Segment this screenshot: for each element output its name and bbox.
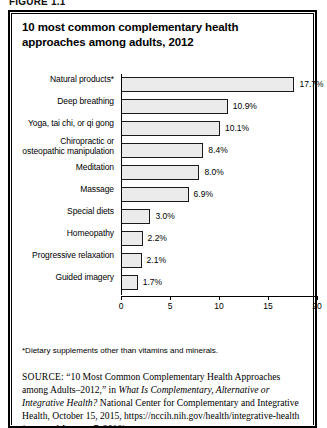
bar-category-label: Special diets: [14, 206, 114, 216]
y-axis-line: [121, 74, 122, 295]
bar: [121, 209, 150, 224]
x-axis: 05101520: [14, 296, 314, 316]
bar-row: Deep breathing10.9%: [14, 96, 314, 118]
bar: [121, 165, 199, 180]
bar-chart: Natural products*17.7%Deep breathing10.9…: [14, 74, 314, 336]
bar-track: [121, 209, 314, 224]
x-axis-tick: [170, 296, 171, 300]
bar-row: Special diets3.0%: [14, 206, 314, 228]
bar-value-label: 8.4%: [208, 143, 227, 158]
bar-row: Natural products*17.7%: [14, 74, 314, 96]
x-axis-tick: [121, 296, 122, 300]
bar-track: [121, 187, 314, 202]
bar-category-label: Natural products*: [14, 74, 114, 84]
bar-track: [121, 121, 314, 136]
figure-source: SOURCE: “10 Most Common Complementary He…: [22, 370, 307, 428]
x-axis-tick-label: 10: [214, 301, 223, 311]
bar-category-label: Deep breathing: [14, 96, 114, 106]
bar-row: Chiropractic orosteopathic manipulation8…: [14, 140, 314, 162]
bar-value-label: 2.1%: [147, 253, 166, 268]
bar-category-label: Meditation: [14, 162, 114, 172]
x-axis-tick: [317, 296, 318, 300]
bar-row: Meditation8.0%: [14, 162, 314, 184]
bar-value-label: 17.7%: [299, 77, 323, 92]
bar: [121, 99, 228, 114]
x-axis-tick-label: 20: [312, 301, 321, 311]
bar-value-label: 3.0%: [155, 209, 174, 224]
bar-category-label: Homeopathy: [14, 228, 114, 238]
bar-category-label: Progressive relaxation: [14, 250, 114, 260]
bar-category-label: Guided imagery: [14, 272, 114, 282]
bar-row: Progressive relaxation2.1%: [14, 250, 314, 272]
bar-rows: Natural products*17.7%Deep breathing10.9…: [14, 74, 314, 294]
bar-track: [121, 77, 314, 92]
bar-category-label: Yoga, tai chi, or qi gong: [14, 118, 114, 128]
bar: [121, 231, 143, 246]
bar-track: [121, 99, 314, 114]
bar-row: Homeopathy2.2%: [14, 228, 314, 250]
bar: [121, 275, 138, 290]
x-axis-tick: [268, 296, 269, 300]
figure-footnote: *Dietary supplements other than vitamins…: [22, 346, 304, 356]
bar-value-label: 6.9%: [194, 187, 213, 202]
bar-value-label: 10.1%: [225, 121, 249, 136]
bar-category-label: Massage: [14, 184, 114, 194]
figure-title: 10 most common complementary health appr…: [22, 20, 302, 50]
bar-row: Guided imagery1.7%: [14, 272, 314, 294]
x-axis-tick-label: 15: [263, 301, 272, 311]
bar-row: Massage6.9%: [14, 184, 314, 206]
bar-value-label: 2.2%: [148, 231, 167, 246]
bar: [121, 143, 203, 158]
bar: [121, 121, 220, 136]
source-label: SOURCE:: [22, 371, 64, 382]
x-axis-tick-label: 5: [168, 301, 173, 311]
bar: [121, 77, 294, 92]
figure-frame: 10 most common complementary health appr…: [8, 10, 317, 428]
x-axis-tick: [219, 296, 220, 300]
x-axis-tick-label: 0: [119, 301, 124, 311]
bar: [121, 253, 142, 268]
bar-value-label: 10.9%: [233, 99, 257, 114]
bar-value-label: 1.7%: [143, 275, 162, 290]
bar: [121, 187, 189, 202]
figure-number: FIGURE 1.1: [9, 0, 65, 8]
bar-value-label: 8.0%: [204, 165, 223, 180]
bar-category-label: Chiropractic orosteopathic manipulation: [14, 136, 114, 156]
